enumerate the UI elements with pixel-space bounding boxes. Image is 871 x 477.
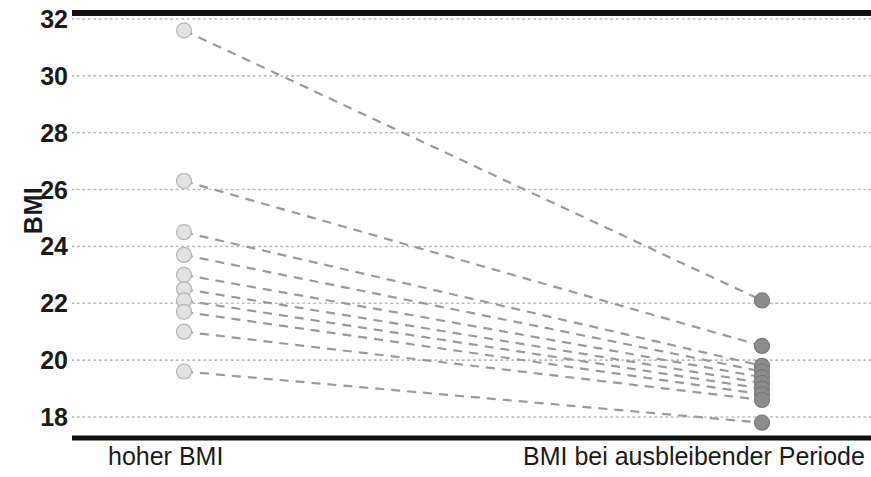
data-point [755, 392, 770, 407]
y-axis-tick-24: 24 [6, 234, 68, 259]
data-point [177, 324, 192, 339]
slopegraph-figure: BMI 3230282624222018 hoher BMI BMI bei a… [0, 0, 871, 477]
y-axis-tick-22: 22 [6, 291, 68, 316]
data-point [177, 174, 192, 189]
plot-area [72, 0, 871, 477]
data-point [755, 293, 770, 308]
y-axis-tick-28: 28 [6, 120, 68, 145]
connector-line [184, 30, 762, 300]
data-point [177, 267, 192, 282]
y-axis-tick-labels: 3230282624222018 [0, 0, 68, 477]
connector-line [184, 332, 762, 400]
y-axis-tick-26: 26 [6, 177, 68, 202]
data-point [177, 23, 192, 38]
plot-svg [72, 0, 871, 477]
data-point [755, 415, 770, 430]
connector-line [184, 232, 762, 366]
connector-line [184, 275, 762, 377]
y-axis-tick-30: 30 [6, 63, 68, 88]
data-point [177, 225, 192, 240]
x-axis-label-right: BMI bei ausbleibender Periode [523, 444, 865, 469]
data-point [755, 338, 770, 353]
gridline-group [72, 19, 871, 417]
y-axis-tick-32: 32 [6, 7, 68, 32]
data-point [177, 364, 192, 379]
connector-line [184, 181, 762, 346]
data-point [177, 304, 192, 319]
connector-line-group [184, 30, 762, 422]
connector-line [184, 372, 762, 423]
y-axis-tick-18: 18 [6, 405, 68, 430]
data-point [177, 247, 192, 262]
x-axis-label-left: hoher BMI [108, 444, 223, 469]
y-axis-tick-20: 20 [6, 348, 68, 373]
